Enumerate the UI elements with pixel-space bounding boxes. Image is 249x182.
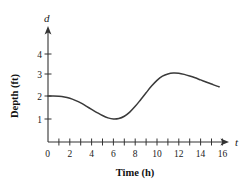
depth-curve [48,73,219,119]
x-axis-variable-label: t [235,136,239,148]
chart-figure: 1 2 3 4 0 2 4 6 8 10 12 14 16 d t Time (… [0,0,249,182]
x-tick-label-12: 12 [174,149,184,159]
y-tick-labels: 1 2 3 4 [37,50,42,125]
y-axis-title: Depth (ft) [9,73,21,118]
y-axis [45,26,52,142]
x-tick-label-14: 14 [196,149,206,159]
y-axis-variable-label: d [44,12,50,24]
y-tick-label-1: 1 [37,115,42,125]
x-tick-labels: 0 2 4 6 8 10 12 14 16 [45,149,227,159]
x-tick-label-0: 0 [45,149,50,159]
x-tick-label-16: 16 [218,149,228,159]
y-tick-label-2: 2 [37,92,42,102]
x-tick-label-2: 2 [67,149,72,159]
x-tick-label-6: 6 [111,149,116,159]
y-tick-label-3: 3 [37,70,42,80]
x-axis-title: Time (h) [116,167,155,179]
x-tick-label-4: 4 [89,149,94,159]
y-tick-label-4: 4 [37,50,42,60]
x-tick-label-10: 10 [152,149,162,159]
depth-vs-time-line-chart: 1 2 3 4 0 2 4 6 8 10 12 14 16 d t Time (… [0,0,249,182]
x-tick-label-8: 8 [133,149,138,159]
x-axis [48,139,229,146]
